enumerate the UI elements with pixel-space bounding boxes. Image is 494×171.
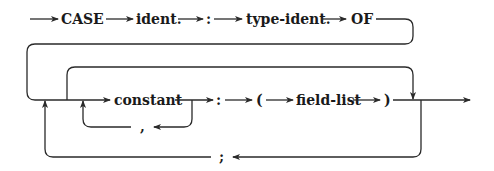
close-paren-symbol: ) <box>384 92 391 108</box>
wrap-connector <box>27 19 413 100</box>
semicolon-loop-back <box>45 101 211 157</box>
semicolon-loop-return <box>233 100 421 157</box>
semicolon-loop: ; <box>45 100 421 165</box>
comma-symbol: , <box>140 118 145 134</box>
ident-label: ident. <box>136 11 182 27</box>
main-row: constant : ( field-list ) <box>67 92 470 108</box>
constant-label: constant <box>114 92 183 108</box>
open-paren-symbol: ( <box>256 92 263 108</box>
case-variant-syntax-diagram: CASE ident. : type-ident. OF constant : … <box>0 0 494 171</box>
keyword-case: CASE <box>61 11 104 27</box>
field-list-label: field-list <box>296 92 362 108</box>
colon-symbol: : <box>206 11 211 27</box>
type-ident-label: type-ident. <box>246 11 331 27</box>
top-row: CASE ident. : type-ident. OF <box>27 11 413 100</box>
colon-symbol: : <box>216 92 221 108</box>
keyword-of: OF <box>351 11 373 27</box>
semicolon-symbol: ; <box>219 149 224 165</box>
